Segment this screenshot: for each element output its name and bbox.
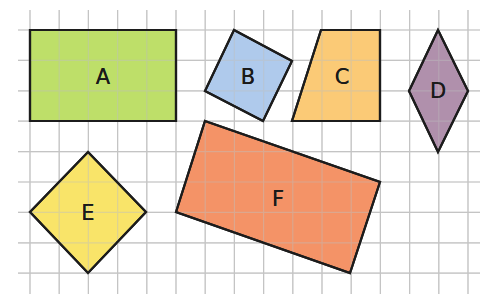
shape-label: E — [81, 201, 94, 225]
shape-label: F — [272, 187, 284, 211]
shape-label: B — [241, 65, 255, 89]
shape-label: D — [430, 79, 446, 103]
shape-label: A — [96, 65, 111, 89]
shapes-diagram: ABCDEF ABCDEF — [0, 0, 489, 304]
shape-label: C — [335, 65, 350, 89]
